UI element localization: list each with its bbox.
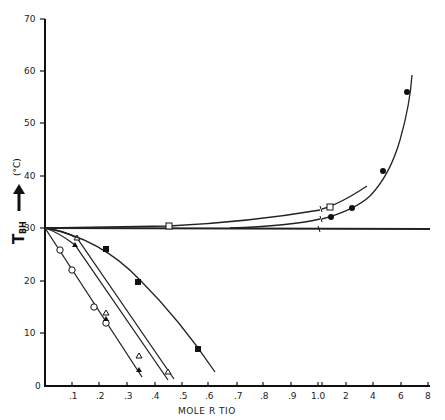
y-axis-arrow-icon <box>13 184 25 211</box>
x-tick-label: .8 <box>260 391 269 401</box>
y-tick-label: 20 <box>24 276 36 286</box>
y-tick-label: 70 <box>24 14 36 24</box>
x-tick-label: 2 <box>343 391 349 401</box>
series-filled-circles <box>230 75 412 228</box>
y-axis-title: T BH <box>10 221 28 244</box>
y-axis-title-sub: BH <box>19 221 28 234</box>
x-ticks: .1 .2 .3 .4 .5 .6 .7 .8 .9 1.0 2 4 6 8 <box>69 382 431 401</box>
chart: 70 60 50 40 30 20 10 0 .1 .2 .3 .4 .5 .6… <box>0 0 445 420</box>
y-tick-label: 50 <box>24 118 36 128</box>
x-tick-label: .2 <box>96 391 105 401</box>
x-tick-label: .3 <box>124 391 133 401</box>
x-tick-label: .1 <box>69 391 78 401</box>
y-ticks: 70 60 50 40 30 20 10 0 <box>24 14 45 391</box>
y-tick-label: 10 <box>24 328 36 338</box>
x-tick-label: 4 <box>370 391 376 401</box>
series-open-circles <box>45 228 142 377</box>
y-tick-label: 60 <box>24 66 36 76</box>
x-tick-label: 1.0 <box>311 391 326 401</box>
x-tick-label: .6 <box>205 391 214 401</box>
series-filled-squares <box>45 228 215 372</box>
series-open-squares <box>45 186 367 229</box>
series-open-triangles <box>45 228 174 379</box>
y-tick-label: 40 <box>24 171 36 181</box>
x-tick-label: 8 <box>425 391 431 401</box>
x-tick-label: .4 <box>151 391 160 401</box>
axes <box>44 19 430 386</box>
x-tick-label: .9 <box>288 391 297 401</box>
x-tick-label: .7 <box>234 391 243 401</box>
x-axis-title: MOLE R TIO <box>178 406 236 416</box>
x-tick-label: 6 <box>398 391 404 401</box>
y-axis-unit: (°C) <box>12 158 22 176</box>
y-tick-label: 0 <box>35 381 41 391</box>
x-tick-label: .5 <box>179 391 188 401</box>
